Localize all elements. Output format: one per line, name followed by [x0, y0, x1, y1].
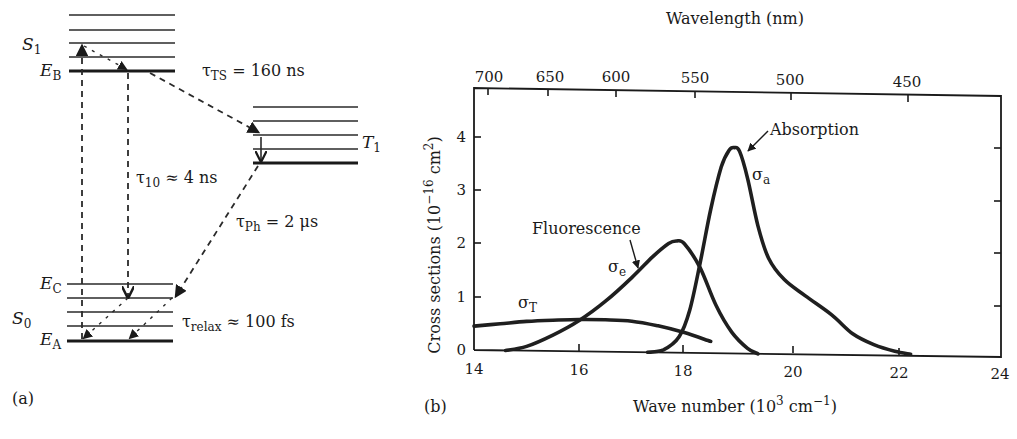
- fluorescence-curve: [506, 241, 758, 354]
- svg-text:22: 22: [889, 364, 908, 382]
- svg-text:700: 700: [475, 68, 504, 86]
- absorption-curve: [648, 147, 911, 354]
- svg-text:600: 600: [602, 68, 631, 86]
- svg-text:16: 16: [569, 361, 588, 379]
- svg-text:0: 0: [456, 341, 466, 359]
- svg-text:3: 3: [456, 181, 466, 199]
- y-tick-labels: 0 1 2 3 4: [456, 128, 466, 359]
- top-axis-title: Wavelength (nm): [666, 9, 804, 28]
- svg-text:550: 550: [681, 69, 710, 87]
- svg-text:450: 450: [893, 73, 922, 91]
- svg-text:1: 1: [456, 288, 466, 306]
- svg-text:2: 2: [456, 234, 466, 252]
- label-sigma-a: σa: [752, 165, 770, 187]
- spectral-curves: [474, 147, 911, 354]
- label-sigma-t: σT: [518, 293, 537, 315]
- x-tick-labels: 14 16 18 20 22 24: [464, 360, 1009, 383]
- panel-b-label: (b): [424, 397, 447, 416]
- fluorescence-pointer-arrow: [630, 240, 638, 268]
- label-sigma-e: σe: [608, 257, 626, 279]
- top-tick-labels: 700 650 600 550 500 450: [475, 68, 922, 91]
- triplet-absorption-curve: [474, 319, 711, 341]
- right-y-ticks: [994, 148, 1001, 306]
- svg-text:4: 4: [456, 128, 466, 146]
- annotation-fluorescence: Fluorescence: [532, 219, 641, 238]
- svg-text:24: 24: [990, 365, 1009, 383]
- svg-text:18: 18: [673, 362, 692, 380]
- svg-text:500: 500: [776, 71, 805, 89]
- x-axis-title: Wave number (103 cm−1): [633, 394, 837, 416]
- y-axis-title: Cross sections (10−16 cm2): [422, 136, 444, 354]
- svg-text:650: 650: [536, 68, 565, 86]
- absorption-pointer-arrow: [748, 131, 768, 151]
- annotation-absorption: Absorption: [769, 120, 859, 139]
- svg-text:20: 20: [783, 363, 802, 381]
- cross-section-chart: Wavelength (nm) 700 650 600 550 500 450: [0, 0, 1017, 439]
- svg-text:14: 14: [464, 360, 483, 378]
- left-y-ticks: [474, 137, 481, 297]
